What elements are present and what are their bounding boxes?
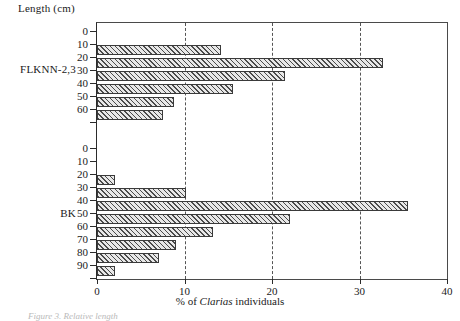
y-tick-0-20	[90, 57, 97, 58]
x-tick-40	[447, 279, 448, 284]
bar	[97, 227, 213, 237]
plot-inner: 0102030400102030405060010203040506070809…	[97, 23, 447, 279]
y-tick-label-1-60: 60	[77, 221, 88, 232]
bar	[97, 71, 285, 81]
bar	[97, 58, 383, 68]
y-axis-title: Length (cm)	[18, 2, 75, 14]
plot-area: 0102030400102030405060010203040506070809…	[96, 22, 448, 280]
y-tick-label-1-10: 10	[77, 156, 88, 167]
panel-label-bk: BK	[4, 207, 76, 219]
y-tick-label-1-0: 0	[83, 143, 89, 154]
bar	[97, 188, 186, 198]
bar	[97, 84, 233, 94]
y-tick-0-60	[90, 109, 97, 110]
y-tick-0-40	[90, 83, 97, 84]
y-tick-0-0	[90, 31, 97, 32]
y-tick-minor-mark-0	[90, 122, 97, 123]
bar	[97, 45, 221, 55]
y-tick-label-1-40: 40	[77, 195, 88, 206]
y-tick-1-60	[90, 226, 97, 227]
y-tick-label-1-20: 20	[77, 169, 88, 180]
bar	[97, 201, 408, 211]
y-tick-label-0-0: 0	[83, 26, 89, 37]
y-tick-label-0-30: 30	[77, 65, 88, 76]
y-tick-0-30	[90, 70, 97, 71]
y-tick-1-40	[90, 200, 97, 201]
y-tick-1-90	[90, 265, 97, 266]
y-tick-label-0-60: 60	[77, 104, 88, 115]
bar	[97, 240, 176, 250]
x-tick-10	[185, 279, 186, 284]
y-tick-label-1-90: 90	[77, 260, 88, 271]
y-tick-minor-mark-1	[90, 278, 97, 279]
x-axis-title: % of Clarias individuals	[0, 295, 460, 307]
panel-label-flknn: FLKNN-2,3	[4, 63, 76, 75]
figure-caption: Figure 3. Relative length	[28, 311, 118, 321]
y-tick-label-1-30: 30	[77, 182, 88, 193]
bar	[97, 214, 290, 224]
x-axis-title-genus: Clarias	[200, 295, 233, 307]
bar	[97, 110, 163, 120]
y-tick-label-0-20: 20	[77, 52, 88, 63]
bar	[97, 266, 115, 276]
y-tick-1-30	[90, 187, 97, 188]
x-tick-30	[360, 279, 361, 284]
y-tick-1-50	[90, 213, 97, 214]
y-tick-1-80	[90, 252, 97, 253]
y-tick-1-70	[90, 239, 97, 240]
y-tick-label-1-80: 80	[77, 247, 88, 258]
x-tick-0	[97, 279, 98, 284]
y-tick-1-20	[90, 174, 97, 175]
x-axis-title-suffix: individuals	[233, 295, 285, 307]
y-tick-0-50	[90, 96, 97, 97]
y-tick-0-10	[90, 44, 97, 45]
x-axis-title-prefix: % of	[176, 295, 200, 307]
y-tick-label-1-50: 50	[77, 208, 88, 219]
y-tick-label-0-50: 50	[77, 91, 88, 102]
bar	[97, 97, 174, 107]
y-tick-label-0-10: 10	[77, 39, 88, 50]
y-tick-label-0-40: 40	[77, 78, 88, 89]
y-tick-label-1-70: 70	[77, 234, 88, 245]
bar	[97, 175, 115, 185]
y-tick-1-10	[90, 161, 97, 162]
bar	[97, 253, 159, 263]
y-tick-1-0	[90, 148, 97, 149]
x-tick-20	[272, 279, 273, 284]
